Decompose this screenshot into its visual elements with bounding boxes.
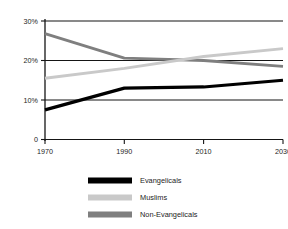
legend-label-evangelicals: Evangelicals [140,176,182,185]
y-axis-label-0: 0 [34,135,38,144]
x-axis-label-2010: 2010 [196,147,212,156]
y-axis-label-30: 30% [24,17,39,26]
x-axis-label-2030: 2030 [275,147,288,156]
x-axis-label-1990: 1990 [116,147,132,156]
legend-swatch-muslims [88,195,132,201]
y-axis-label-20: 20% [24,56,39,65]
chart-canvas: 30% 20% 10% 0 1970 1990 2010 2030 Evange… [0,0,288,229]
line-chart: 30% 20% 10% 0 1970 1990 2010 2030 Evange… [0,0,288,229]
y-axis-label-10: 10% [24,96,39,105]
legend-label-non-evangelicals: Non-Evangelicals [140,210,198,219]
legend-swatch-non-evangelicals [88,212,132,218]
x-axis-label-1970: 1970 [37,147,53,156]
legend-swatch-evangelicals [88,178,132,184]
legend-label-muslims: Muslims [140,193,167,202]
